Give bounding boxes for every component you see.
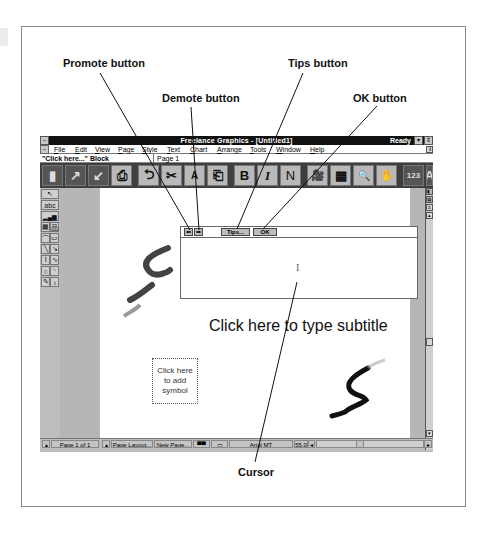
callout-leader-lines: [0, 0, 491, 535]
